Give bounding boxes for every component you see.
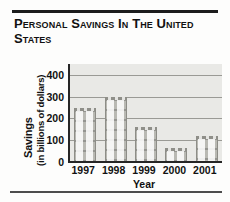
plot-area [68,64,222,162]
y-tick-label: 300 [38,91,64,103]
x-tick-label: 1997 [68,164,98,176]
y-tick-label: 400 [38,69,64,81]
x-axis-tick-labels: 19971998199920002001 [68,164,220,178]
x-axis-line [68,161,222,163]
y-tick-label: 100 [38,134,64,146]
bar-chart: Savings (in billions of dollars) 0100200… [8,58,222,188]
bar-series [70,64,222,162]
bar-top-edge [75,108,95,111]
x-tick-label: 2000 [159,164,189,176]
bar-top-edge [166,148,186,151]
bar-top-edge [106,97,126,100]
x-tick-label: 1998 [98,164,128,176]
bottom-rule [10,191,222,193]
y-axis-tick-labels: 0100200300400 [38,58,64,168]
bar [165,148,187,162]
bar [135,127,157,162]
y-tick-label: 0 [38,156,64,168]
x-tick-label: 2001 [190,164,220,176]
bar-top-edge [197,136,217,139]
bar [74,108,96,162]
bar [105,97,127,162]
bar-top-edge [136,127,156,130]
y-axis-title: Savings (in billions of dollars) [8,58,42,168]
figure-page: Personal Savings in the United States Sa… [0,0,230,202]
y-axis-title-main: Savings [22,117,34,158]
top-rule [12,10,218,13]
bar [196,136,218,162]
x-axis-title: Year [68,178,220,190]
chart-title: Personal Savings in the United States [14,16,214,46]
x-tick-label: 1999 [129,164,159,176]
y-tick-label: 200 [38,112,64,124]
